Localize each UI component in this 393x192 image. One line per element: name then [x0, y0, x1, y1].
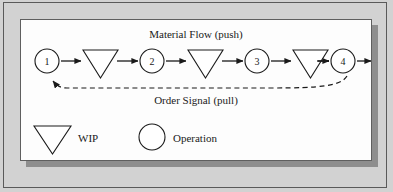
material-flow-label: Material Flow (push)	[149, 28, 243, 41]
figure-container: Material Flow (push) 1 2	[0, 0, 393, 192]
operation-node-1-label: 1	[45, 56, 50, 67]
legend-wip-label: WIP	[78, 132, 98, 144]
operation-node-2-label: 2	[150, 56, 155, 67]
operation-node-4-label: 4	[341, 56, 346, 67]
order-signal-dashed-arrow	[53, 76, 347, 88]
push-pull-flow-diagram: Material Flow (push) 1 2	[21, 20, 371, 160]
diagram-canvas: Material Flow (push) 1 2	[21, 20, 371, 160]
wip-buffer-1	[83, 50, 118, 78]
legend-wip-icon	[34, 126, 71, 154]
diagram-panel: Material Flow (push) 1 2	[20, 19, 372, 161]
wip-buffer-3	[293, 50, 328, 78]
operation-node-3-label: 3	[255, 56, 260, 67]
order-signal-label: Order Signal (pull)	[154, 94, 238, 107]
legend-operation-icon	[139, 124, 165, 150]
wip-buffer-2	[188, 50, 223, 78]
legend-operation-label: Operation	[173, 132, 217, 144]
